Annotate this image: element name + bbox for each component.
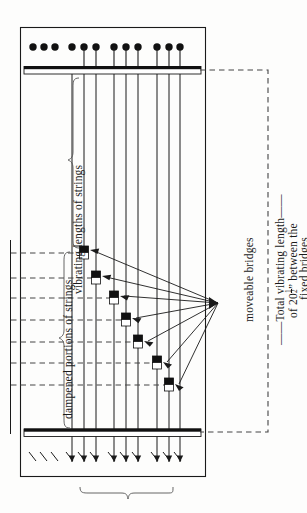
instrument-frame <box>21 28 206 477</box>
bottom-fixed-bridge <box>24 429 201 437</box>
leader-arrow <box>167 303 218 362</box>
label-total-vibrating-length-line1: ——Total vibrating length—— <box>274 194 286 345</box>
arrow-tip <box>93 456 99 463</box>
moveable-bridge <box>165 378 174 391</box>
top-fixed-bridge <box>24 66 201 74</box>
moveable-bridge <box>122 313 131 326</box>
arrow-tip <box>154 456 160 463</box>
fraction-one-half: 12 <box>286 289 297 293</box>
arrow-tip <box>123 456 129 463</box>
string-arrowhead <box>40 452 47 461</box>
string-pin-segment-group <box>84 47 180 68</box>
moveable-bridge <box>92 271 101 284</box>
string-arrowhead <box>29 452 36 461</box>
leader-arrowhead <box>175 384 184 391</box>
total-line1-trailing-dash: —— <box>274 194 286 217</box>
label-moveable-bridges: moveable bridges <box>243 237 255 322</box>
label-total-vibrating-length-line3: fixed bridges <box>298 237 307 300</box>
tuning-pin <box>40 43 47 50</box>
leader-arrowhead <box>102 275 111 281</box>
total-line1-dash: —— <box>274 322 286 345</box>
diagram-svg <box>0 0 307 513</box>
arrow-tip <box>81 456 87 463</box>
arrow-tip <box>69 456 75 463</box>
arrow-tip <box>135 456 141 463</box>
figure-canvas: vibrating lengths of strings dampened po… <box>0 0 307 513</box>
label-dampened-portions: dampened portions of strings <box>62 280 74 419</box>
leader-arrow <box>148 303 218 341</box>
tuning-pin <box>29 43 36 50</box>
moveable-bridge <box>153 356 162 369</box>
string-run-group <box>72 74 180 462</box>
moveable-bridge <box>134 335 143 348</box>
leader-arrowhead <box>90 249 99 255</box>
label-vibrating-lengths: vibrating lengths of strings <box>72 165 84 294</box>
arrow-tip <box>166 456 172 463</box>
string-arrowhead <box>51 452 58 461</box>
leader-arrowhead <box>120 295 129 300</box>
leader-arrowhead <box>144 341 153 347</box>
leader-convergence-point <box>209 297 218 309</box>
leader-arrowhead <box>132 318 141 323</box>
arrow-tip <box>111 456 117 463</box>
tuning-pin <box>68 43 75 50</box>
tuning-pin <box>51 43 58 50</box>
dashed-row-group <box>11 253 167 385</box>
moveable-bridge <box>110 291 119 304</box>
bottom-brace <box>80 487 173 499</box>
leader-arrowhead <box>163 362 172 369</box>
leader-arrowhead-group <box>90 249 184 392</box>
arrow-tip <box>177 456 183 463</box>
total-line1-text: Total vibrating length <box>274 218 286 322</box>
tuning-pin-group <box>29 43 183 50</box>
leader-arrow <box>179 303 218 384</box>
total-length-bracket <box>200 70 268 432</box>
